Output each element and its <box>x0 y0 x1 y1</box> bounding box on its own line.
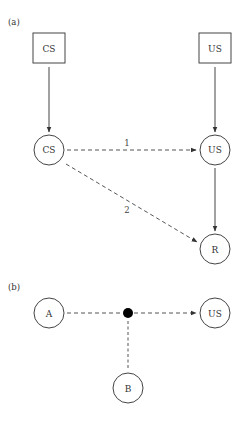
cs-box-label: CS <box>42 44 55 54</box>
diagram-canvas: (a) CS US CS US R 1 <box>0 0 243 421</box>
panel-a-label: (a) <box>8 17 20 27</box>
a-circle-label: A <box>45 309 53 319</box>
panel-b-label: (b) <box>8 282 20 292</box>
us-circle-label: US <box>208 145 222 155</box>
panel-b: (b) A US B <box>8 282 230 403</box>
cs-circle-node: CS <box>34 135 64 165</box>
b-circle-label: B <box>125 384 132 394</box>
edge-label-1: 1 <box>124 138 129 148</box>
edge-label-2: 2 <box>124 205 129 215</box>
us-box-label: US <box>208 44 222 54</box>
b-circle-node: B <box>113 373 143 403</box>
cs-circle-label: CS <box>42 145 55 155</box>
us-circle-node: US <box>200 135 230 165</box>
r-circle-node: R <box>200 234 230 264</box>
junction-dot <box>123 308 133 318</box>
a-circle-node: A <box>34 298 64 328</box>
us-box-node: US <box>199 33 231 63</box>
panel-a: (a) CS US CS US R 1 <box>8 17 231 264</box>
us-circle-b-label: US <box>208 309 222 319</box>
r-circle-label: R <box>212 245 219 255</box>
cs-box-node: CS <box>33 33 65 63</box>
edge-cs-to-r-dashed <box>66 164 197 242</box>
us-circle-node-b: US <box>200 298 230 328</box>
